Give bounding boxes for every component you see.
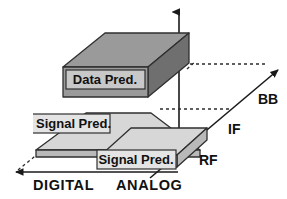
- slab-bottom-label: Signal Pred.: [98, 152, 173, 167]
- slab-top-label: Data Pred.: [73, 72, 137, 87]
- slab-middle-label: Signal Pred.: [36, 116, 111, 131]
- slab-top: [63, 33, 189, 97]
- axis-label-if: IF: [228, 121, 241, 137]
- axis-label-bb: BB: [258, 91, 278, 107]
- diagram-canvas: Data Pred. Signal Pred. Signal Pred. BB …: [0, 0, 287, 199]
- diagram-svg: Data Pred. Signal Pred. Signal Pred. BB …: [0, 0, 287, 199]
- axis-label-rf: RF: [199, 152, 218, 168]
- axis-label-digital: DIGITAL: [33, 177, 94, 193]
- axis-label-analog: ANALOG: [116, 177, 182, 193]
